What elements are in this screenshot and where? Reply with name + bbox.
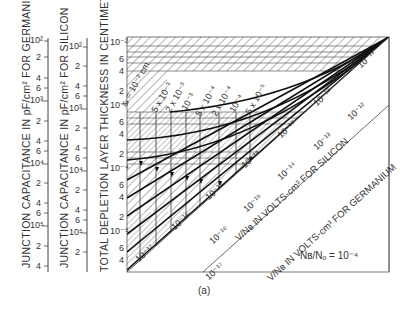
doping-ratio-annotation: Nʙ/Nₒ = 10⁻⁴ xyxy=(300,250,358,261)
depletion-thickness-axis-label: TOTAL DEPLETION LAYER THICKNESS IN CENTI… xyxy=(98,0,110,272)
figure-caption: (a) xyxy=(198,285,210,296)
